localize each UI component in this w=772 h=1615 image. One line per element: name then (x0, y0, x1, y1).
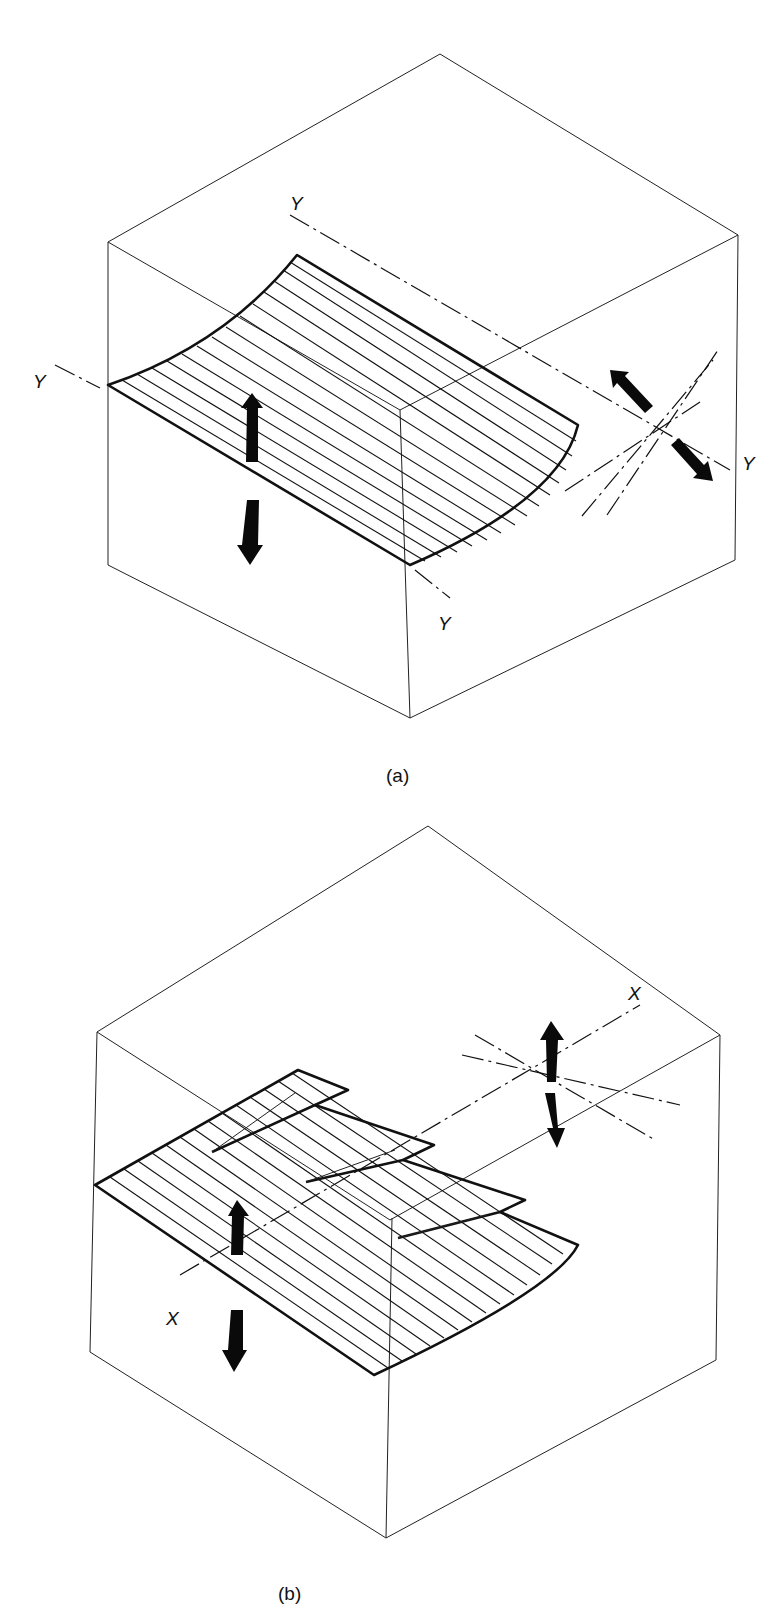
y-axis-upper (290, 215, 730, 470)
axis-label-y-left: Y (33, 371, 47, 392)
panel-a: Y Y Y Y (a) (33, 54, 756, 786)
cube-outline (108, 54, 738, 718)
stepped-surface-b (95, 1070, 578, 1375)
panel-b: X X (b) (90, 826, 720, 1604)
cube-a (108, 54, 738, 718)
arrow-down-icon (237, 500, 263, 565)
double-arrow-upper-b (540, 1021, 565, 1148)
surface-hatching (122, 262, 576, 561)
cross-axis-1 (582, 360, 713, 516)
y-axis-left (55, 365, 100, 388)
y-axis-lower (415, 570, 450, 598)
arrow-down-right-icon (671, 438, 713, 481)
double-arrow-diagonal-a (610, 370, 713, 481)
arrow-up-icon (241, 393, 263, 462)
double-arrow-vertical-a (237, 393, 263, 565)
arrow-down-icon (222, 1310, 247, 1372)
cube-hidden-edge-right (400, 235, 738, 410)
diagram-canvas: Y Y Y Y (a) (0, 0, 772, 1615)
cross-axis-1 (475, 1035, 655, 1140)
cross-axis-2 (462, 1055, 680, 1105)
caption-b: (b) (278, 1583, 301, 1604)
arrow-up-left-icon (610, 370, 653, 413)
axis-label-x-right: X (627, 983, 642, 1004)
axis-label-y-bottom: Y (438, 613, 452, 634)
curved-surface-a (108, 255, 578, 565)
step-riser-1 (212, 1093, 295, 1152)
axis-label-y-right: Y (742, 453, 756, 474)
cube-hidden-edge-left (108, 242, 400, 410)
axis-label-x-left: X (165, 1308, 180, 1329)
cube-b (90, 826, 720, 1538)
caption-a: (a) (386, 765, 409, 786)
arrow-down-icon (545, 1093, 565, 1148)
step-edge-1 (212, 1105, 315, 1152)
cube-outline (90, 826, 720, 1538)
step-riser-3 (398, 1215, 487, 1238)
axis-label-y-top: Y (290, 193, 304, 214)
